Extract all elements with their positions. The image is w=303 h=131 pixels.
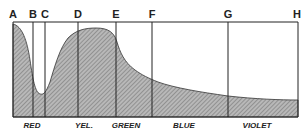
band-label-violet: VIOLET xyxy=(243,121,273,130)
line-label-a: A xyxy=(9,8,17,20)
band-label-blue: BLUE xyxy=(173,121,195,130)
line-label-d: D xyxy=(74,8,82,20)
band-label-yellow: YEL. xyxy=(75,121,93,130)
line-label-g: G xyxy=(224,8,233,20)
band-label-red: RED xyxy=(24,121,41,130)
line-label-b: B xyxy=(29,8,37,20)
absorption-curve xyxy=(13,24,298,117)
band-label-green: GREEN xyxy=(112,121,141,130)
line-label-e: E xyxy=(112,8,119,20)
line-label-h: H xyxy=(293,8,301,20)
spectrum-diagram: A B C D E F G H RED YEL. GREEN BLUE VIOL… xyxy=(0,0,303,131)
line-label-f: F xyxy=(149,8,156,20)
line-label-c: C xyxy=(41,8,49,20)
